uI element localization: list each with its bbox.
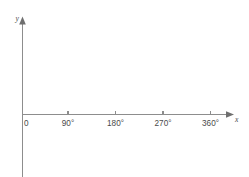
y-axis-arrowhead [19, 17, 26, 25]
y-axis-label: y [15, 14, 20, 23]
x-axis-arrowhead [226, 111, 234, 117]
coordinate-axes-plot: 0 90° 180° 270° 360° y x [0, 0, 249, 177]
x-tick-label-180: 180° [107, 119, 124, 128]
x-tick-label-90: 90° [62, 119, 74, 128]
x-tick-label-270: 270° [155, 119, 172, 128]
x-tick-label-360: 360° [202, 119, 219, 128]
x-tick-label-0: 0 [24, 119, 29, 128]
x-axis-label: x [234, 115, 239, 124]
figure-canvas: 0 90° 180° 270° 360° y x [0, 0, 249, 177]
